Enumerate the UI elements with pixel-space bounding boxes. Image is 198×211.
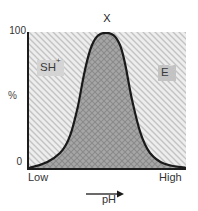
- y-tick-100: 100: [3, 26, 26, 36]
- peak-label: X: [95, 13, 119, 24]
- left-region-superscript: +: [56, 56, 61, 65]
- ph-activity-figure: X 100 % 0 SH+ E− Low High: [0, 0, 198, 211]
- x-axis-high-label: High: [159, 172, 182, 183]
- y-axis-label: %: [8, 91, 17, 101]
- left-region-text: SH: [40, 61, 56, 73]
- left-region-label: SH+: [37, 60, 64, 76]
- right-region-superscript: −: [169, 61, 174, 70]
- right-arrow-icon: [86, 184, 124, 192]
- x-axis-label: pH: [99, 194, 119, 205]
- right-region-text: E: [161, 66, 169, 78]
- right-region-label: E−: [158, 65, 176, 81]
- y-tick-0: 0: [4, 157, 22, 167]
- x-axis-low-label: Low: [28, 172, 48, 183]
- plot-area: [27, 32, 186, 170]
- bell-curve-chart: [29, 32, 186, 168]
